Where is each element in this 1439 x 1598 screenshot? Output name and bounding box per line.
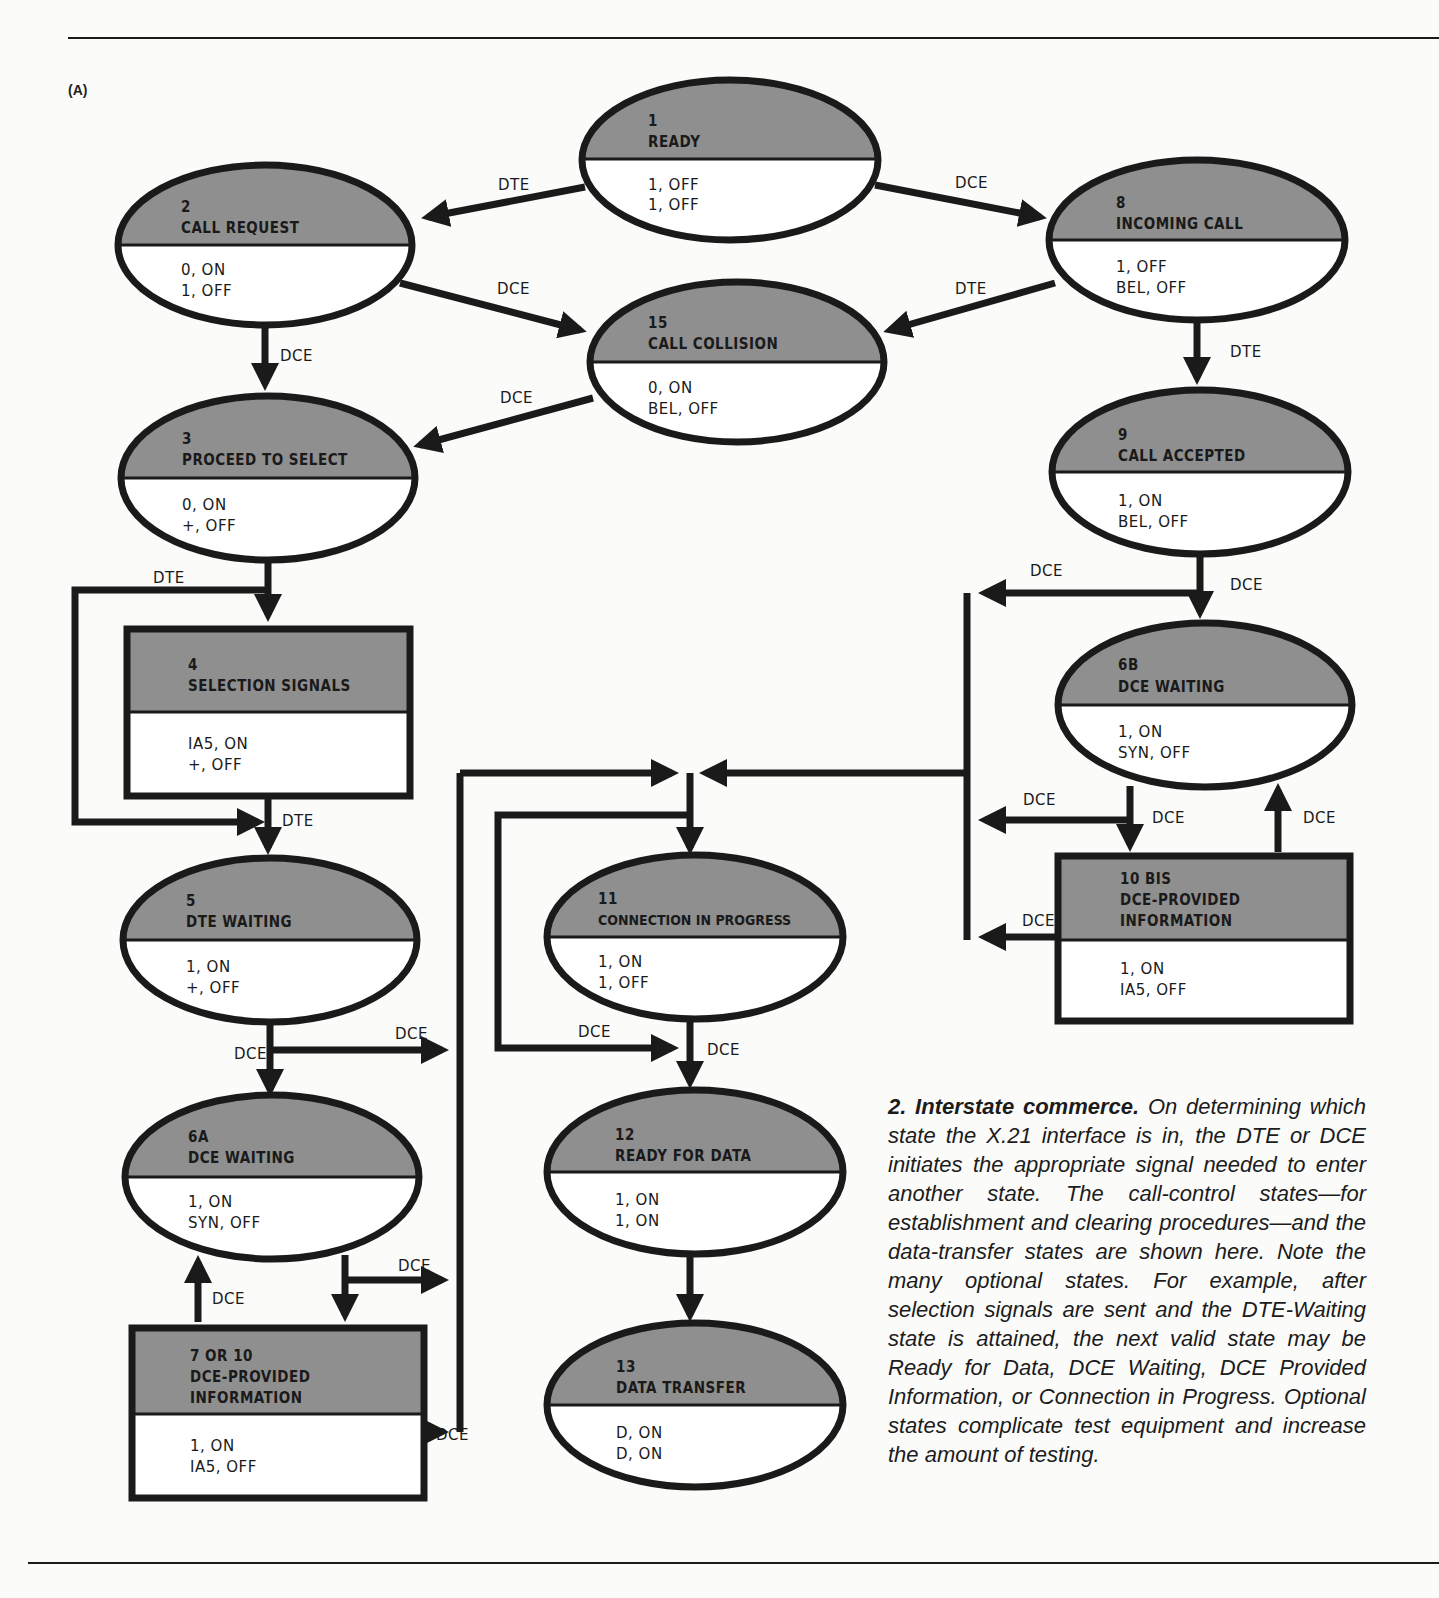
- state-value-1: 1, ON: [1120, 960, 1165, 978]
- state-10bis-dce-provided-information[interactable]: 10 BIS DCE-PROVIDED INFORMATION 1, ON IA…: [1058, 856, 1350, 1021]
- state-15-call-collision[interactable]: 15 CALL COLLISION 0, ON BEL, OFF: [587, 280, 887, 442]
- state-value-1: 1, ON: [598, 953, 643, 971]
- state-value-2: BEL, OFF: [1118, 513, 1189, 531]
- state-number: 11: [598, 890, 618, 908]
- state-number: 9: [1118, 426, 1128, 444]
- label-10bis-to-bus: DCE: [1022, 912, 1055, 930]
- state-4-selection-signals[interactable]: 4 SELECTION SIGNALS IA5, ON +, OFF: [127, 629, 410, 796]
- label-11-to-12: DCE: [707, 1041, 740, 1059]
- state-name: DCE-PROVIDED: [190, 1368, 310, 1386]
- state-value-1: 1, ON: [190, 1437, 235, 1455]
- state-name: DCE WAITING: [1118, 678, 1225, 696]
- label-2-to-15: DCE: [497, 280, 530, 298]
- state-number: 3: [182, 430, 192, 448]
- caption-body: On determining which state the X.21 inte…: [888, 1094, 1366, 1467]
- state-number: 5: [186, 892, 196, 910]
- label-1-to-2: DTE: [498, 176, 530, 194]
- label-5-to-bus: DCE: [395, 1025, 428, 1043]
- state-value-2: +, OFF: [182, 517, 236, 535]
- label-6b-to-bus: DCE: [1023, 791, 1056, 809]
- label-15-to-3: DCE: [500, 389, 533, 407]
- state-value-2: +, OFF: [186, 979, 240, 997]
- label-9-to-6b: DCE: [1230, 576, 1263, 594]
- state-number: 6B: [1118, 656, 1139, 674]
- state-value-1: IA5, ON: [188, 735, 248, 753]
- label-1-to-8: DCE: [955, 174, 988, 192]
- state-name: DCE-PROVIDED: [1120, 891, 1240, 909]
- state-value-1: 1, OFF: [1116, 258, 1167, 276]
- caption-title: 2. Interstate commerce.: [888, 1094, 1139, 1119]
- state-6b-dce-waiting[interactable]: 6B DCE WAITING 1, ON SYN, OFF: [1055, 621, 1355, 787]
- label-6a-to-bus: DCE: [398, 1257, 431, 1275]
- state-value-1: 1, ON: [186, 958, 231, 976]
- state-value-2: SYN, OFF: [188, 1214, 261, 1232]
- state-number: 7 OR 10: [190, 1347, 253, 1365]
- state-number: 15: [648, 314, 668, 332]
- state-value-2: IA5, OFF: [190, 1458, 257, 1476]
- state-number: 12: [615, 1126, 635, 1144]
- label-2-to-3: DCE: [280, 347, 313, 365]
- state-11-connection-in-progress[interactable]: 11 CONNECTION IN PROGRESS 1, ON 1, OFF: [545, 853, 845, 1019]
- label-9-to-bus: DCE: [1030, 562, 1063, 580]
- label-10bis-to-6b: DCE: [1303, 809, 1336, 827]
- state-name: READY FOR DATA: [615, 1147, 751, 1165]
- state-name: CALL ACCEPTED: [1118, 447, 1246, 465]
- state-name: CALL REQUEST: [181, 219, 300, 237]
- state-value-1: 0, ON: [648, 379, 693, 397]
- label-5-to-6a: DCE: [234, 1045, 267, 1063]
- arrow-2-to-15: [400, 283, 580, 330]
- state-value-2: 1, OFF: [598, 974, 649, 992]
- state-name-line2: INFORMATION: [1120, 912, 1233, 930]
- state-value-1: 1, OFF: [648, 176, 699, 194]
- label-7-to-6a: DCE: [212, 1290, 245, 1308]
- state-name: INCOMING CALL: [1116, 215, 1243, 233]
- state-value-2: 1, OFF: [181, 282, 232, 300]
- state-value-2: 1, OFF: [648, 196, 699, 214]
- state-number: 1: [648, 112, 658, 130]
- state-3-proceed-to-select[interactable]: 3 PROCEED TO SELECT 0, ON +, OFF: [118, 394, 418, 560]
- label-8-to-9: DTE: [1230, 343, 1262, 361]
- state-value-1: 0, ON: [181, 261, 226, 279]
- state-value-2: IA5, OFF: [1120, 981, 1187, 999]
- state-12-ready-for-data[interactable]: 12 READY FOR DATA 1, ON 1, ON: [545, 1088, 845, 1254]
- state-number: 2: [181, 198, 191, 216]
- state-5-dte-waiting[interactable]: 5 DTE WAITING 1, ON +, OFF: [120, 856, 420, 1022]
- state-value-2: BEL, OFF: [648, 400, 719, 418]
- state-name: CALL COLLISION: [648, 335, 778, 353]
- state-number: 8: [1116, 194, 1126, 212]
- state-value-2: 1, ON: [615, 1212, 660, 1230]
- state-name-line2: INFORMATION: [190, 1389, 303, 1407]
- state-value-1: 0, ON: [182, 496, 227, 514]
- label-6b-to-10bis: DCE: [1152, 809, 1185, 827]
- state-number: 4: [188, 656, 198, 674]
- state-number: 13: [616, 1358, 636, 1376]
- state-name: CONNECTION IN PROGRESS: [598, 912, 791, 928]
- figure-caption: 2. Interstate commerce. On determining w…: [888, 1092, 1366, 1469]
- state-value-1: 1, ON: [615, 1191, 660, 1209]
- state-7-or-10-dce-provided-information[interactable]: 7 OR 10 DCE-PROVIDED INFORMATION 1, ON I…: [132, 1328, 424, 1498]
- state-1-ready[interactable]: 1 READY 1, OFF 1, OFF: [580, 78, 880, 240]
- state-name: DTE WAITING: [186, 913, 292, 931]
- state-name: DCE WAITING: [188, 1149, 295, 1167]
- state-number: 10 BIS: [1120, 870, 1172, 888]
- label-4-to-5: DTE: [282, 812, 314, 830]
- state-value-2: +, OFF: [188, 756, 242, 774]
- label-8-to-15: DTE: [955, 280, 987, 298]
- state-value-1: D, ON: [616, 1424, 663, 1442]
- state-value-2: BEL, OFF: [1116, 279, 1187, 297]
- state-value-1: 1, ON: [1118, 723, 1163, 741]
- state-name: DATA TRANSFER: [616, 1379, 746, 1397]
- state-name: PROCEED TO SELECT: [182, 451, 348, 469]
- state-13-data-transfer[interactable]: 13 DATA TRANSFER D, ON D, ON: [545, 1321, 845, 1487]
- state-6a-dce-waiting[interactable]: 6A DCE WAITING 1, ON SYN, OFF: [122, 1093, 422, 1259]
- state-9-call-accepted[interactable]: 9 CALL ACCEPTED 1, ON BEL, OFF: [1050, 388, 1350, 554]
- state-name: READY: [648, 133, 700, 151]
- label-7-to-bus: DCE: [436, 1426, 469, 1444]
- label-11-loop: DCE: [578, 1023, 611, 1041]
- state-8-incoming-call[interactable]: 8 INCOMING CALL 1, OFF BEL, OFF: [1047, 158, 1347, 320]
- state-number: 6A: [188, 1128, 209, 1146]
- state-2-call-request[interactable]: 2 CALL REQUEST 0, ON 1, OFF: [115, 163, 415, 325]
- state-name: SELECTION SIGNALS: [188, 677, 351, 695]
- state-value-2: D, ON: [616, 1445, 663, 1463]
- state-value-1: 1, ON: [1118, 492, 1163, 510]
